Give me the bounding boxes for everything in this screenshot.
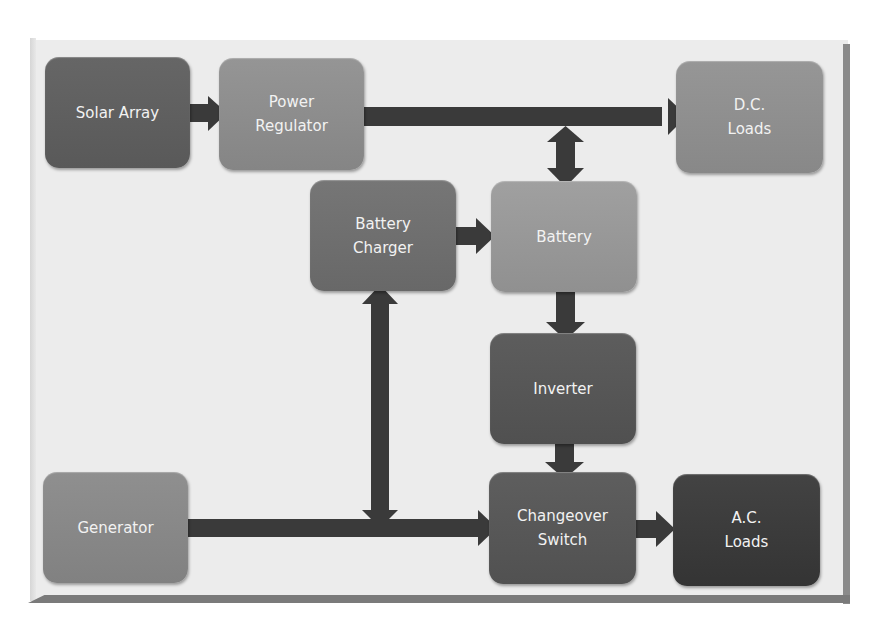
arrow-ac-bus-charger-bidirectional xyxy=(362,285,398,528)
arrow-regulator-to-dc-loads xyxy=(364,98,687,135)
node-label: Generator xyxy=(77,516,153,540)
arrow-charger-to-battery xyxy=(456,218,495,254)
node-label: Power Regulator xyxy=(255,90,328,138)
arrow-generator-to-changeover xyxy=(188,510,497,546)
node-power-regulator: Power Regulator xyxy=(219,58,364,170)
node-inverter: Inverter xyxy=(490,333,636,444)
node-changeover-switch: Changeover Switch xyxy=(489,472,636,584)
node-battery: Battery xyxy=(491,181,637,292)
arrow-changeover-to-ac-loads xyxy=(636,511,675,547)
node-solar-array: Solar Array xyxy=(45,57,190,168)
node-label: A.C. Loads xyxy=(725,506,769,554)
node-label: Inverter xyxy=(533,377,592,401)
node-label: Battery Charger xyxy=(353,212,413,260)
node-ac-loads: A.C. Loads xyxy=(673,474,820,586)
node-label: Battery xyxy=(536,225,592,249)
node-label: Changeover Switch xyxy=(517,504,608,552)
arrow-dc-bus-battery-bidirectional xyxy=(547,126,584,187)
node-dc-loads: D.C. Loads xyxy=(676,61,823,173)
node-label: D.C. Loads xyxy=(728,93,772,141)
node-battery-charger: Battery Charger xyxy=(310,180,456,291)
node-label: Solar Array xyxy=(76,101,159,125)
node-generator: Generator xyxy=(43,472,188,583)
